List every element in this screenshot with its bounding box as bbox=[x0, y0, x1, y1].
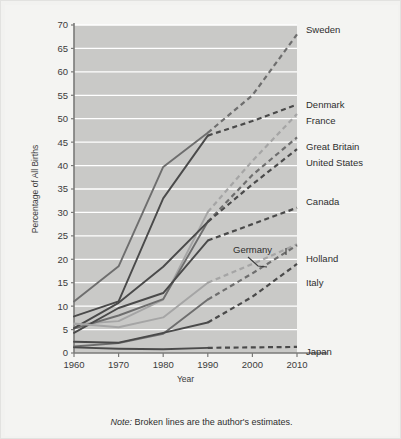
y-tick-label: 70 bbox=[57, 19, 68, 30]
series-label-japan: Japan bbox=[306, 346, 332, 357]
x-tick-label: 1980 bbox=[153, 359, 174, 370]
line-chart: 0510152025303540455055606570196019701980… bbox=[5, 5, 398, 405]
y-tick-label: 50 bbox=[57, 113, 68, 124]
series-label-france: France bbox=[306, 115, 336, 126]
y-tick-label: 20 bbox=[57, 254, 68, 265]
y-tick-label: 10 bbox=[57, 301, 68, 312]
figure-note: Note: Broken lines are the author's esti… bbox=[5, 411, 398, 429]
x-tick-label: 2010 bbox=[286, 359, 307, 370]
series-label-holland: Holland bbox=[306, 253, 338, 264]
series-label-denmark: Denmark bbox=[306, 99, 345, 110]
note-text: Note: Broken lines are the author's esti… bbox=[111, 417, 293, 427]
y-tick-label: 5 bbox=[63, 324, 68, 335]
x-tick-label: 1960 bbox=[63, 359, 84, 370]
y-axis-title: Percentage of All Births bbox=[30, 145, 40, 233]
y-tick-label: 30 bbox=[57, 207, 68, 218]
series-label-sweden: Sweden bbox=[306, 24, 340, 35]
y-tick-label: 15 bbox=[57, 277, 68, 288]
series-label-united-states: United States bbox=[306, 157, 363, 168]
figure-inner: 0510152025303540455055606570196019701980… bbox=[5, 5, 398, 436]
note-body: Broken lines are the author's estimates. bbox=[135, 417, 293, 427]
y-tick-label: 0 bbox=[63, 347, 68, 358]
x-tick-label: 2000 bbox=[242, 359, 263, 370]
y-tick-label: 55 bbox=[57, 90, 68, 101]
series-label-canada: Canada bbox=[306, 196, 340, 207]
y-tick-label: 45 bbox=[57, 137, 68, 148]
y-tick-label: 60 bbox=[57, 66, 68, 77]
y-tick-label: 65 bbox=[57, 43, 68, 54]
series-label-germany: Germany bbox=[233, 244, 272, 255]
note-prefix: Note: bbox=[111, 417, 133, 427]
x-tick-label: 1970 bbox=[108, 359, 129, 370]
series-label-great-britain: Great Britain bbox=[306, 141, 359, 152]
figure-container: 0510152025303540455055606570196019701980… bbox=[0, 0, 401, 439]
y-tick-label: 40 bbox=[57, 160, 68, 171]
y-tick-label: 25 bbox=[57, 230, 68, 241]
x-tick-label: 1990 bbox=[197, 359, 218, 370]
series-label-italy: Italy bbox=[306, 277, 324, 288]
x-axis-title: Year bbox=[177, 374, 194, 384]
y-tick-label: 35 bbox=[57, 183, 68, 194]
